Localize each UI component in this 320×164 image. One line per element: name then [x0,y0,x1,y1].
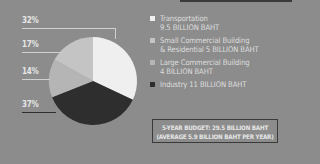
legend-value: & Residential 5 BILLION BAHT [160,45,290,54]
legend-swatch-icon [150,60,155,65]
leader-line-small-commercial [22,52,62,53]
legend-item-industry: Industry 11 BILLION BAHT [150,80,290,89]
legend-item-large-commercial: Large Commercial Building 4 BILLION BAHT [150,58,290,76]
legend-label: Transportation [160,14,290,23]
percent-label-small-commercial: 17% [22,40,38,49]
legend-item-transportation: Transportation 9.5 BILLION BAHT [150,14,290,32]
legend-item-small-commercial: Small Commercial Building & Residential … [150,36,290,54]
budget-box: 5-YEAR BUDGET: 29.5 BILLION BAHT (AVERAG… [152,119,278,143]
legend-label: Small Commercial Building [160,36,290,45]
legend-swatch-icon [150,38,155,43]
legend-label: Industry 11 BILLION BAHT [160,80,290,89]
leader-line-large-commercial [22,79,50,80]
legend-value: 9.5 BILLION BAHT [160,23,290,32]
percent-label-transportation: 32% [22,16,38,25]
legend-swatch-icon [150,82,155,87]
leader-line-transportation [22,28,116,29]
legend: Transportation 9.5 BILLION BAHT Small Co… [150,14,290,93]
budget-total: 5-YEAR BUDGET: 29.5 BILLION BAHT [153,123,277,132]
legend-swatch-icon [150,16,155,21]
leader-line-transportation-vertical [115,28,116,39]
budget-average: (AVERAGE 5.9 BILLION BAHT PER YEAR) [153,132,277,141]
leader-line-industry [22,112,56,113]
percent-label-large-commercial: 14% [22,67,38,76]
percent-label-industry: 37% [22,100,38,109]
legend-value: 4 BILLION BAHT [160,67,290,76]
legend-label: Large Commercial Building [160,58,290,67]
